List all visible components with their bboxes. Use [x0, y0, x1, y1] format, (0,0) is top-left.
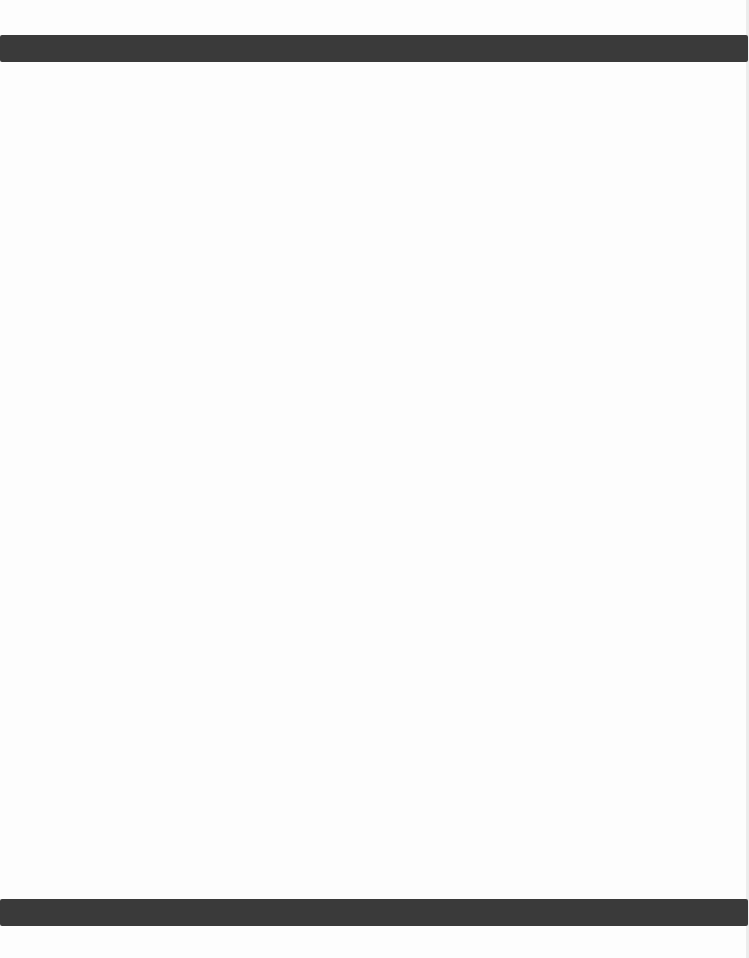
bottom-rule: [0, 899, 748, 926]
scanned-page: [0, 0, 749, 958]
blank-content-area: [0, 62, 749, 899]
top-rule: [0, 35, 748, 62]
